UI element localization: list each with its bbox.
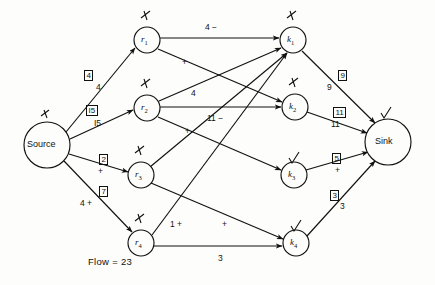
flow-label-r4-k1: 1 + (170, 219, 182, 229)
node-r4[interactable] (128, 230, 154, 256)
slash-mark-k2-icon (289, 78, 298, 87)
edge-r3-k4 (151, 183, 283, 239)
flow-label-source-r2: I5 (94, 118, 101, 128)
flow-label-source-r3: + (98, 166, 103, 176)
edge-r4-k1 (152, 53, 287, 235)
node-label-source: Source (27, 139, 56, 149)
node-r3[interactable] (128, 162, 154, 188)
flow-label-r2-k1: 4 (191, 88, 196, 98)
edge-layer (64, 38, 375, 246)
node-k1[interactable] (280, 27, 306, 53)
node-r2[interactable] (134, 95, 160, 121)
diagram-canvas: Source Sink r1 r2 r3 r4 k1 k2 k3 k4 4 I5… (0, 0, 435, 285)
node-k4[interactable] (283, 230, 309, 256)
flow-label-r4-k4: 3 (218, 253, 223, 263)
slash-mark-r3-icon (135, 146, 144, 155)
flow-label-source-r1: 4 (96, 82, 101, 92)
flow-label-r2-k2: 11 − (207, 113, 223, 123)
edge-r1-k2 (158, 49, 282, 102)
slash-mark-r1-icon (141, 11, 150, 20)
node-label-sink: Sink (375, 136, 393, 146)
capacity-box-source-r4: 7 (99, 186, 108, 197)
slash-mark-k1-icon (287, 11, 296, 20)
slash-mark-r4-icon (135, 214, 144, 223)
slash-mark-source-icon (41, 110, 49, 118)
network-graph-svg (0, 0, 435, 285)
flow-label-k4-sink: 3 (340, 201, 345, 211)
check-mark-sink-icon (381, 107, 391, 118)
flow-label-r3-k4: + (222, 219, 227, 229)
capacity-box-source-r1: 4 (84, 70, 93, 81)
flow-label-source-r4: 4 + (80, 198, 92, 208)
edge-source-r2 (70, 110, 133, 139)
capacity-box-k4-sink: 3 (330, 190, 339, 201)
flow-label-r1-k1: 4 − (205, 22, 217, 32)
check-mark-k4-icon (291, 220, 301, 231)
edge-r3-k1 (150, 53, 287, 167)
flow-label-r1-k2: + (182, 57, 187, 67)
node-layer (24, 27, 411, 256)
total-flow-caption: Flow = 23 (88, 256, 132, 267)
slash-mark-r2-icon (141, 79, 150, 88)
capacity-box-k1-sink: 9 (338, 70, 347, 81)
capacity-box-k3-sink: 5 (332, 153, 341, 164)
edge-k4-sink (307, 161, 375, 236)
flow-label-k2-sink: 11 (331, 119, 340, 129)
flow-label-k1-sink: 9 (327, 82, 332, 92)
node-r1[interactable] (134, 27, 160, 53)
flow-label-r2-k3: + (185, 126, 190, 136)
node-k2[interactable] (282, 94, 308, 120)
check-mark-k3-icon (289, 152, 299, 163)
capacity-box-source-r2: I5 (86, 105, 98, 116)
flow-label-k3-sink: + (335, 165, 340, 175)
node-k3[interactable] (281, 162, 307, 188)
capacity-box-k2-sink: 11 (333, 107, 346, 118)
edge-r2-k1 (159, 48, 281, 101)
capacity-box-source-r3: 2 (99, 154, 108, 165)
